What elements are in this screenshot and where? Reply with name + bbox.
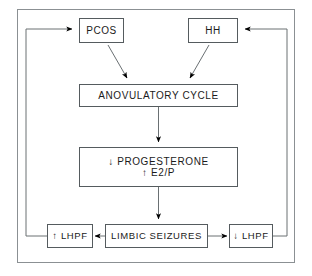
node-lhpf-increase-label: ↑ LHPF xyxy=(52,231,87,242)
node-anovulatory-cycle[interactable]: ANOVULATORY CYCLE xyxy=(79,84,238,107)
diagram-canvas: PCOS HH ANOVULATORY CYCLE ↓ PROGESTERONE… xyxy=(0,0,312,276)
node-lhpf-decrease[interactable]: ↓ LHPF xyxy=(229,224,273,248)
node-limbic-seizures[interactable]: LIMBIC SEIZURES xyxy=(105,224,208,248)
node-pcos[interactable]: PCOS xyxy=(79,18,124,43)
edge-lhpf-decrease-to-hh xyxy=(245,29,287,236)
node-lhpf-decrease-label: ↓ LHPF xyxy=(233,231,268,242)
node-lhpf-increase[interactable]: ↑ LHPF xyxy=(47,224,93,248)
node-hh-label: HH xyxy=(205,25,221,37)
edge-pcos-to-anovulatory xyxy=(108,45,127,78)
node-hh[interactable]: HH xyxy=(188,18,238,43)
node-progesterone-line1: ↓ PROGESTERONE xyxy=(108,156,209,168)
node-pcos-label: PCOS xyxy=(86,25,117,37)
edge-lhpf-increase-to-pcos xyxy=(26,29,72,236)
edge-hh-to-anovulatory xyxy=(190,45,209,78)
node-progesterone[interactable]: ↓ PROGESTERONE ↑ E2/P xyxy=(79,147,238,187)
node-anovulatory-cycle-label: ANOVULATORY CYCLE xyxy=(98,90,219,102)
node-limbic-seizures-label: LIMBIC SEIZURES xyxy=(111,231,202,242)
node-progesterone-line2: ↑ E2/P xyxy=(142,167,175,179)
